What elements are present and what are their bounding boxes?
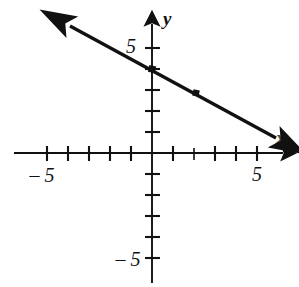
point-y-intercept	[148, 65, 156, 73]
coordinate-plane-figure: y x – 5 5 5 – 5	[0, 0, 299, 287]
coordinate-plane-svg: y x – 5 5 5 – 5	[0, 0, 299, 287]
plotted-line-group	[70, 26, 276, 138]
linear-function-line	[70, 26, 276, 138]
point-on-line	[192, 89, 200, 97]
y-tick-label-5: 5	[126, 35, 136, 57]
y-tick-label-negative-5: – 5	[115, 248, 141, 270]
axes-group	[14, 24, 283, 283]
x-axis-label: x	[275, 127, 286, 148]
x-tick-label-5: 5	[252, 163, 262, 185]
x-tick-label-negative-5: – 5	[29, 164, 55, 186]
y-axis-label: y	[161, 8, 172, 29]
